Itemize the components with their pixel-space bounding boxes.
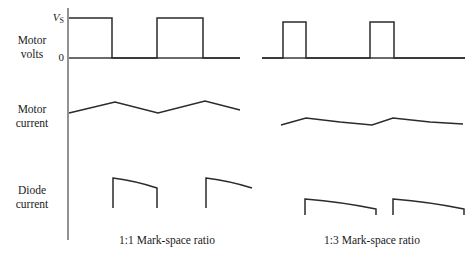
row-label-motor-current-line2: current: [16, 117, 49, 129]
diode-current-right-pulse-1: [305, 199, 376, 215]
row-label-motor-current-line1: Motor: [18, 103, 47, 115]
axis-label-supply-voltage: VS: [53, 11, 64, 25]
diode-current-left-pulse-2: [206, 178, 252, 208]
motor-volts-right-waveform: [262, 22, 465, 58]
row-label-diode-current-line2: current: [16, 198, 49, 210]
axis-label-zero: 0: [59, 51, 65, 63]
waveform-figure: Motor volts VS 0 Motor current Diode cur…: [0, 0, 476, 258]
caption-left: 1:1 Mark-space ratio: [119, 234, 215, 247]
row-label-motor-volts-line1: Motor: [18, 34, 47, 46]
motor-volts-left-waveform: [69, 18, 240, 58]
diode-current-right-pulse-2: [393, 199, 464, 215]
motor-current-left-waveform: [69, 101, 240, 113]
waveform-svg: Motor volts VS 0 Motor current Diode cur…: [0, 0, 476, 258]
diode-current-left-pulse-1: [113, 178, 157, 208]
row-label-diode-current-line1: Diode: [18, 184, 46, 196]
axis-label-supply-voltage-sub: S: [60, 16, 64, 25]
motor-current-right-waveform: [281, 118, 463, 125]
caption-right: 1:3 Mark-space ratio: [324, 234, 420, 247]
row-label-motor-volts-line2: volts: [21, 48, 44, 60]
